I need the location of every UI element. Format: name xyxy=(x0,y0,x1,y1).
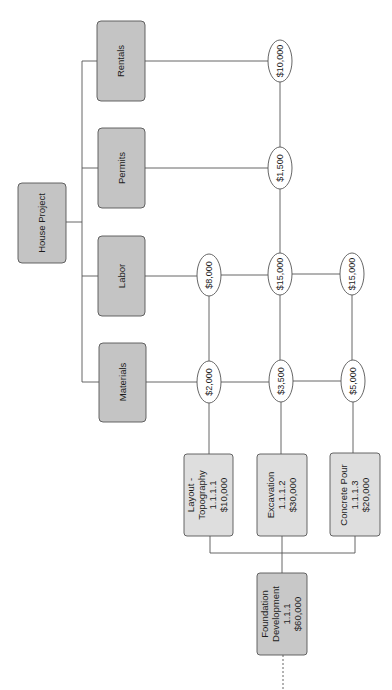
wp-code: 1.1.1.3 xyxy=(349,480,360,509)
summary-code: 1.1.1 xyxy=(281,603,292,624)
root-node-house-project[interactable]: House Project xyxy=(18,183,66,263)
cost-value: $5,000 xyxy=(348,367,358,395)
cost-ellipse-labor-layout[interactable]: $8,000 xyxy=(197,254,221,296)
wp-cost: $20,000 xyxy=(360,478,371,512)
wp-name: Excavation xyxy=(265,472,276,518)
wbs-cost-diagram: House Project Rentals Permits Labor Mate… xyxy=(0,0,392,690)
root-label: House Project xyxy=(36,193,47,253)
cost-value: $3,500 xyxy=(276,367,286,395)
cost-value: $1,500 xyxy=(275,154,285,182)
work-package-excavation[interactable]: Excavation 1.1.1.2 $30,000 xyxy=(257,454,307,536)
wp-code: 1.1.1.2 xyxy=(276,480,287,509)
wp-name: Concrete Pour xyxy=(338,464,349,525)
work-package-layout-topography[interactable]: Layout - Topography 1.1.1.1 $10,000 xyxy=(184,454,233,536)
cost-ellipse-labor-concrete[interactable]: $15,000 xyxy=(340,253,364,295)
wp-cost: $10,000 xyxy=(218,478,229,512)
summary-task-foundation-development[interactable]: Foundation Development 1.1.1 $60,000 xyxy=(257,573,307,655)
work-package-concrete-pour[interactable]: Concrete Pour 1.1.1.3 $20,000 xyxy=(330,453,380,536)
category-label: Materials xyxy=(117,362,128,401)
cost-value: $8,000 xyxy=(204,261,214,289)
category-node-labor[interactable]: Labor xyxy=(98,236,145,316)
cost-value: $2,000 xyxy=(204,368,214,396)
category-label: Labor xyxy=(116,264,127,288)
cost-ellipse-labor-excavation[interactable]: $15,000 xyxy=(268,253,292,295)
category-node-permits[interactable]: Permits xyxy=(98,128,145,208)
cost-ellipse-materials-concrete[interactable]: $5,000 xyxy=(341,360,365,402)
wp-name-line1: Layout - xyxy=(185,478,196,512)
cost-value: $15,000 xyxy=(275,258,285,291)
wp-code: 1.1.1.1 xyxy=(207,480,218,509)
cost-value: $15,000 xyxy=(347,258,357,291)
summary-name-line1: Foundation xyxy=(259,590,270,638)
wp-cost: $30,000 xyxy=(287,478,298,512)
cost-ellipse-materials-layout[interactable]: $2,000 xyxy=(197,361,221,403)
cost-ellipse-materials-excavation[interactable]: $3,500 xyxy=(269,360,293,402)
cost-value: $10,000 xyxy=(275,45,285,78)
category-node-rentals[interactable]: Rentals xyxy=(97,21,145,101)
category-node-materials[interactable]: Materials xyxy=(99,343,146,422)
summary-name-line2: Development xyxy=(270,586,281,642)
category-label: Rentals xyxy=(115,45,126,77)
wp-name-line2: Topography xyxy=(196,470,207,520)
summary-cost: $60,000 xyxy=(292,597,303,631)
cost-ellipse-rentals[interactable]: $10,000 xyxy=(268,40,292,82)
category-label: Permits xyxy=(116,152,127,184)
cost-ellipse-permits[interactable]: $1,500 xyxy=(268,147,292,189)
